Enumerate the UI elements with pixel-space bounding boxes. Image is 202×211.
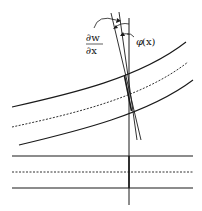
deformed-beam-top-edge	[12, 42, 186, 107]
normal-to-neutral-axis-line	[111, 13, 141, 140]
deformed-beam-neutral-axis	[12, 62, 188, 127]
rotation-label: φ (x)	[136, 36, 156, 47]
beam-diagram: ∂w ∂x φ (x)	[0, 0, 202, 211]
slope-label-numerator: ∂w	[86, 32, 100, 43]
rotation-label-argument: (x)	[142, 36, 156, 47]
slope-label-denominator: ∂x	[86, 45, 97, 56]
rotated-cross-section-line	[119, 12, 137, 140]
deformed-beam-bottom-edge	[19, 80, 193, 145]
slope-label: ∂w ∂x	[86, 32, 103, 56]
rotation-label-leader	[127, 34, 134, 37]
